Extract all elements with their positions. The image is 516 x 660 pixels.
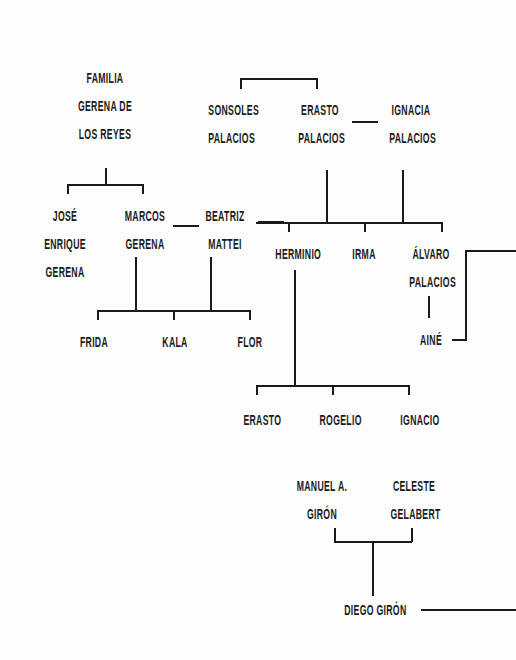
connector-line	[316, 78, 318, 89]
node-line: GERENA	[123, 230, 166, 258]
node-line: GIRÓN	[296, 500, 348, 528]
connector-line	[67, 184, 69, 194]
connector-line	[256, 385, 258, 395]
node-line: ENRIQUE	[43, 230, 86, 258]
connector-line	[372, 541, 374, 596]
node-line: FLOR	[235, 328, 266, 356]
connector-line	[135, 257, 137, 311]
node-line: ROGELIO	[320, 406, 361, 434]
node-celeste-gelabert: CELESTE GELABERT	[390, 472, 437, 528]
connector-line	[332, 385, 334, 395]
connector-line	[256, 222, 443, 224]
node-line: HERMINIO	[275, 240, 318, 268]
node-line: FRIDA	[75, 328, 112, 356]
node-ignacio: IGNACIO	[400, 406, 441, 434]
connector-line	[249, 310, 251, 320]
marriage-line	[352, 121, 378, 123]
node-line: PALACIOS	[409, 268, 452, 296]
node-diego-giron: DIEGO GIRÓN	[344, 596, 404, 624]
node-flor: FLOR	[235, 328, 266, 356]
node-marcos-gerena: MARCOS GERENA	[123, 202, 166, 258]
connector-line	[105, 168, 107, 185]
node-line: ERASTO	[243, 406, 280, 434]
node-line: MARCOS	[123, 202, 166, 230]
connector-line	[67, 184, 143, 186]
node-line: SONSOLES	[208, 96, 251, 124]
node-line: GELABERT	[390, 500, 437, 528]
node-frida: FRIDA	[75, 328, 112, 356]
node-line: ERASTO	[298, 96, 341, 124]
node-line: JOSÉ	[43, 202, 86, 230]
connector-line	[142, 184, 144, 194]
connector-line	[364, 222, 366, 232]
connector-line	[411, 528, 413, 542]
connector-line	[465, 250, 516, 252]
node-line: PALACIOS	[208, 124, 251, 152]
node-line: AINÉ	[416, 326, 447, 354]
connector-line	[288, 222, 290, 232]
connector-line	[173, 310, 175, 320]
node-line: KALA	[160, 328, 191, 356]
connector-line	[240, 78, 242, 89]
node-line: GERENA DE	[77, 92, 133, 120]
node-line: IGNACIO	[400, 406, 441, 434]
node-line: MANUEL A.	[296, 472, 348, 500]
node-line: ÁLVARO	[409, 240, 452, 268]
connector-line	[210, 257, 212, 311]
node-line: PALACIOS	[389, 124, 432, 152]
connector-line	[421, 609, 516, 611]
connector-line	[402, 170, 404, 223]
node-herminio: HERMINIO	[275, 240, 318, 268]
node-line: GERENA	[43, 258, 86, 286]
node-alvaro-palacios: ÁLVARO PALACIOS	[409, 240, 452, 296]
node-familia-gerena-de-los-reyes: FAMILIA GERENA DE LOS REYES	[77, 64, 133, 148]
node-line: IRMA	[345, 240, 382, 268]
node-manuel-a-giron: MANUEL A. GIRÓN	[296, 472, 348, 528]
connector-line	[294, 270, 296, 386]
node-line: FAMILIA	[77, 64, 133, 92]
node-line: DIEGO GIRÓN	[344, 596, 404, 624]
node-line: BEATRIZ	[203, 202, 246, 230]
node-rogelio: ROGELIO	[320, 406, 361, 434]
family-tree-diagram: FAMILIA GERENA DE LOS REYES SONSOLES PAL…	[0, 0, 516, 660]
node-aine: AINÉ	[416, 326, 447, 354]
marriage-line	[173, 225, 199, 227]
connector-line	[428, 296, 430, 318]
connector-line	[240, 78, 317, 80]
node-erasto-palacios: ERASTO PALACIOS	[298, 96, 341, 152]
node-beatriz-mattei: BEATRIZ MATTEI	[203, 202, 246, 258]
connector-line	[334, 528, 336, 542]
connector-line	[465, 250, 467, 341]
node-kala: KALA	[160, 328, 191, 356]
connector-line	[408, 385, 410, 395]
connector-line	[441, 222, 443, 232]
node-ignacia-palacios: IGNACIA PALACIOS	[389, 96, 432, 152]
node-jose-enrique-gerena: JOSÉ ENRIQUE GERENA	[43, 202, 86, 286]
node-line: IGNACIA	[389, 96, 432, 124]
connector-line	[326, 170, 328, 223]
node-erasto-jr: ERASTO	[243, 406, 280, 434]
node-line: PALACIOS	[298, 124, 341, 152]
node-line: LOS REYES	[77, 120, 133, 148]
connector-line	[452, 339, 466, 341]
node-sonsoles-palacios: SONSOLES PALACIOS	[208, 96, 251, 152]
node-line: CELESTE	[390, 472, 437, 500]
node-irma: IRMA	[345, 240, 382, 268]
connector-line	[97, 310, 99, 320]
node-line: MATTEI	[203, 230, 246, 258]
